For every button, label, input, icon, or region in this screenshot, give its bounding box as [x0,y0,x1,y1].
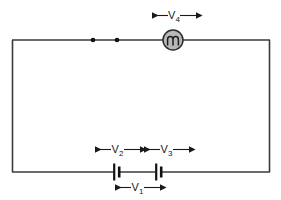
measurement-v1-label: V1 [132,181,144,196]
measurement-v2: V2 [95,143,140,158]
junction-dot-2-icon [115,38,120,43]
circuit-diagram-canvas: V4 V2 V3 V1 [0,0,281,200]
circuit-loop [12,40,270,172]
lamp-icon [163,30,183,50]
measurement-v3-label: V3 [161,143,173,158]
measurement-v4-label: V4 [168,9,180,24]
junction-dot-1-icon [91,38,96,43]
measurement-v4: V4 [152,9,196,24]
battery-cell-left-icon [114,164,119,181]
measurement-v1: V1 [115,181,160,196]
circuit-schematic-svg: V4 V2 V3 V1 [0,0,281,200]
measurement-v2-label: V2 [112,143,124,158]
measurement-v3: V3 [144,143,189,158]
battery-cell-right-icon [156,164,161,181]
